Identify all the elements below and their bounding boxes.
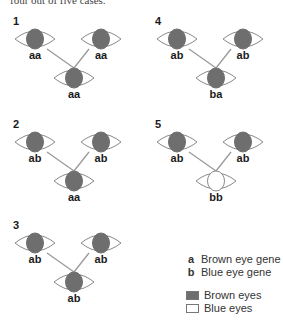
cross-panel-4: 4ababba bbox=[152, 15, 283, 115]
parent-right-eye-icon bbox=[81, 29, 121, 49]
child-eye-icon bbox=[54, 68, 94, 88]
parent-right-genotype: ab bbox=[95, 152, 108, 164]
parent-right-eye-icon bbox=[81, 132, 121, 152]
parent-left-eye-icon bbox=[157, 29, 197, 49]
cross-panel-2: 2ababaa bbox=[10, 118, 150, 218]
child-genotype: aa bbox=[68, 88, 80, 100]
legend-label-brown-eyes: Brown eyes bbox=[204, 289, 261, 302]
brown-iris-icon bbox=[208, 68, 225, 88]
parent-right-genotype: aa bbox=[95, 49, 107, 61]
parent-right-eye-icon bbox=[223, 132, 263, 152]
legend-label-blue-eyes: Blue eyes bbox=[204, 302, 252, 315]
inheritance-line bbox=[189, 49, 216, 68]
legend-key-a: a bbox=[186, 253, 196, 266]
brown-iris-icon bbox=[235, 132, 252, 152]
legend-gene-b: b Blue eye gene bbox=[186, 266, 281, 279]
parent-left-eye-icon bbox=[15, 233, 55, 253]
inheritance-line bbox=[74, 152, 89, 171]
parent-right-genotype: ab bbox=[95, 253, 108, 265]
cross-panel-5: 5ababbb bbox=[152, 118, 283, 218]
child-eye-icon bbox=[54, 171, 94, 191]
brown-iris-icon bbox=[93, 132, 110, 152]
inheritance-line bbox=[216, 49, 231, 68]
brown-iris-icon bbox=[66, 272, 83, 292]
parent-left-eye-icon bbox=[15, 29, 55, 49]
cross-panel-1: 1aaaaaa bbox=[10, 15, 150, 115]
legend-gene-a: a Brown eye gene bbox=[186, 253, 281, 266]
brown-iris-icon bbox=[27, 233, 44, 253]
parent-right-eye-icon bbox=[81, 233, 121, 253]
parent-left-genotype: ab bbox=[29, 253, 42, 265]
parent-left-eye-icon bbox=[157, 132, 197, 152]
parent-right-genotype: ab bbox=[237, 49, 250, 61]
legend-brown-eyes: Brown eyes bbox=[186, 289, 281, 302]
brown-iris-icon bbox=[66, 68, 83, 88]
inheritance-line bbox=[189, 152, 216, 171]
child-eye-icon bbox=[196, 68, 236, 88]
inheritance-line bbox=[47, 49, 74, 68]
brown-iris-icon bbox=[93, 233, 110, 253]
inheritance-line bbox=[216, 152, 231, 171]
inheritance-line bbox=[74, 253, 89, 272]
brown-iris-icon bbox=[27, 132, 44, 152]
inheritance-line bbox=[74, 49, 89, 68]
child-eye-icon bbox=[196, 171, 236, 191]
parent-left-genotype: ab bbox=[29, 152, 42, 164]
legend: a Brown eye gene b Blue eye gene Brown e… bbox=[186, 253, 281, 315]
parent-left-genotype: ab bbox=[171, 152, 184, 164]
parent-right-eye-icon bbox=[223, 29, 263, 49]
legend-label-brown-gene: Brown eye gene bbox=[201, 253, 281, 266]
brown-iris-icon bbox=[27, 29, 44, 49]
child-genotype: aa bbox=[68, 191, 80, 203]
child-genotype: ba bbox=[210, 88, 223, 100]
blue-swatch-icon bbox=[186, 304, 199, 313]
caption-text: four out of five cases. bbox=[10, 0, 106, 6]
brown-iris-icon bbox=[169, 29, 186, 49]
brown-iris-icon bbox=[93, 29, 110, 49]
cross-panel-3: 3ababab bbox=[10, 219, 150, 319]
inheritance-line bbox=[47, 152, 74, 171]
parent-left-genotype: aa bbox=[29, 49, 41, 61]
legend-label-blue-gene: Blue eye gene bbox=[201, 266, 271, 279]
legend-blue-eyes: Blue eyes bbox=[186, 302, 281, 315]
brown-iris-icon bbox=[235, 29, 252, 49]
parent-right-genotype: ab bbox=[237, 152, 250, 164]
child-eye-icon bbox=[54, 272, 94, 292]
brown-swatch-icon bbox=[186, 291, 199, 300]
legend-key-b: b bbox=[186, 266, 196, 279]
blue-iris-icon bbox=[208, 171, 225, 191]
child-genotype: ab bbox=[68, 292, 81, 304]
inheritance-line bbox=[47, 253, 74, 272]
brown-iris-icon bbox=[66, 171, 83, 191]
brown-iris-icon bbox=[169, 132, 186, 152]
child-genotype: bb bbox=[209, 191, 222, 203]
parent-left-eye-icon bbox=[15, 132, 55, 152]
parent-left-genotype: ab bbox=[171, 49, 184, 61]
